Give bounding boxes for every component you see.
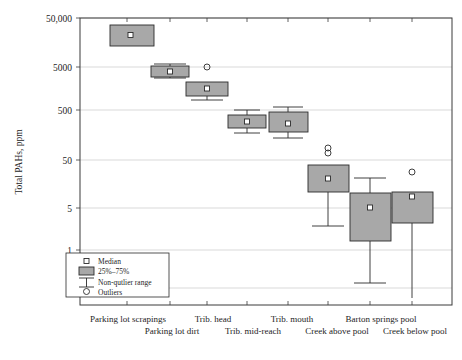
box-iqr (350, 193, 391, 241)
cat-label-trib-mid-reach: Trib. mid-reach (225, 326, 282, 336)
y-tick-label-50: 50 (63, 156, 73, 166)
cat-label-trib-mouth: Trib. mouth (271, 314, 314, 324)
chart-svg: Total PAHs, ppm 50,000 5000 500 50 5 (0, 0, 462, 360)
y-axis-title: Total PAHs, ppm (14, 129, 24, 195)
cat-label-parking-lot-dirt: Parking lot dirt (145, 326, 200, 336)
y-tick-label-5000: 5000 (53, 63, 72, 73)
cat-label-creek-below-pool: Creek below pool (383, 326, 447, 336)
legend-label-nonoutlier: Non-qutlier range (98, 278, 152, 287)
median-marker (326, 176, 331, 181)
y-axis-title-text: Total PAHs, ppm (14, 129, 24, 195)
median-marker (286, 121, 291, 126)
box-plot-chart: Total PAHs, ppm 50,000 5000 500 50 5 (0, 0, 462, 360)
cat-label-barton-springs-pool: Barton springs pool (346, 314, 417, 324)
median-marker (410, 194, 415, 199)
y-tick-label-50000: 50,000 (46, 14, 72, 24)
legend-label-outliers: Outliers (98, 288, 122, 297)
y-tick-label-500: 500 (58, 106, 73, 116)
cat-label-creek-above-pool: Creek above pool (305, 326, 369, 336)
median-marker (368, 205, 373, 210)
median-marker (205, 86, 210, 91)
median-marker (128, 33, 133, 38)
chart-background (0, 0, 462, 360)
legend-iqr-icon (79, 267, 94, 275)
y-tick-label-5: 5 (67, 204, 72, 214)
median-marker (245, 119, 250, 124)
cat-label-trib-head: Trib. head (195, 314, 232, 324)
legend-label-median: Median (98, 257, 121, 266)
box-plot-parking-lot-dirt (151, 64, 189, 78)
median-marker (168, 69, 173, 74)
cat-label-parking-lot-scrapings: Parking lot scrapings (90, 314, 166, 324)
legend: Median 25%–75% Non-qutlier range Outlier… (66, 253, 169, 297)
box-plot-parking-lot-scrapings (110, 25, 154, 46)
legend-median-icon (84, 259, 89, 264)
legend-label-iqr: 25%–75% (98, 267, 129, 276)
